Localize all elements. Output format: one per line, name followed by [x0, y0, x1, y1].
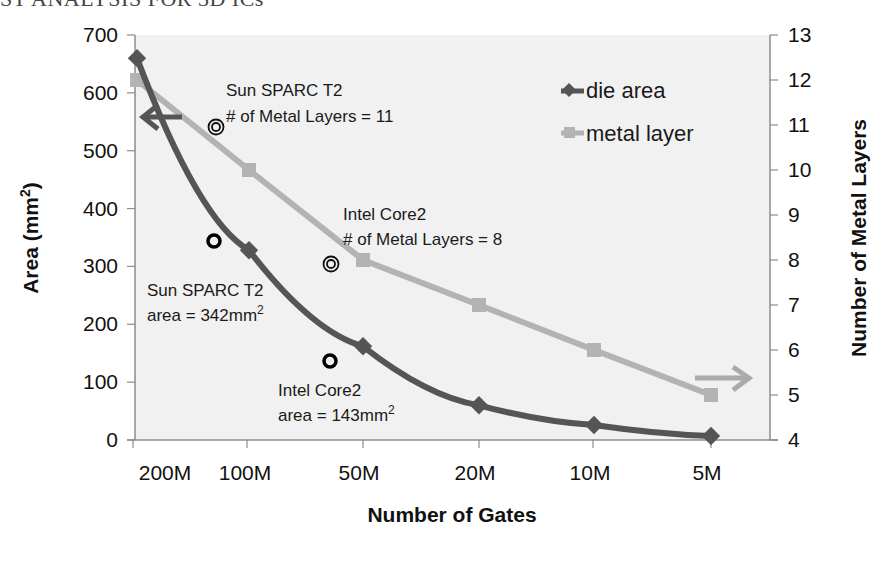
core2-area-label: Intel Core2 — [278, 381, 361, 400]
right-tick-label: 6 — [788, 338, 800, 361]
metal-layer-point — [472, 298, 486, 312]
sparc-layers-value: # of Metal Layers = 11 — [226, 107, 393, 126]
metal-layer-point — [242, 163, 256, 177]
x-tick-label: 100M — [219, 461, 272, 484]
dual-axis-line-chart: 0100200300400500600700 45678910111213 20… — [0, 0, 890, 563]
x-tick-label: 50M — [339, 461, 380, 484]
right-tick-label: 10 — [788, 158, 811, 181]
right-tick-label: 4 — [788, 428, 800, 451]
metal-layer-point — [356, 253, 370, 267]
x-tick-label: 20M — [455, 461, 496, 484]
x-tick-label: 200M — [139, 461, 192, 484]
left-axis-ticks: 0100200300400500600700 — [83, 23, 135, 451]
left-tick-label: 300 — [83, 254, 118, 277]
core2-area-value: area = 143mm2 — [278, 403, 395, 425]
left-tick-label: 100 — [83, 370, 118, 393]
right-tick-label: 8 — [788, 248, 800, 271]
sparc-area-label: Sun SPARC T2 — [147, 281, 264, 300]
left-tick-label: 700 — [83, 23, 118, 46]
left-tick-label: 0 — [106, 428, 118, 451]
legend-die-area-label: die area — [586, 78, 666, 103]
left-axis-title: Area (mm2) — [17, 182, 42, 294]
metal-layer-point — [587, 343, 601, 357]
right-tick-label: 12 — [788, 68, 811, 91]
left-tick-label: 200 — [83, 312, 118, 335]
x-axis-title: Number of Gates — [367, 503, 536, 526]
x-tick-label: 10M — [570, 461, 611, 484]
right-tick-label: 9 — [788, 203, 800, 226]
x-axis-ticks: 200M100M50M20M10M5M — [133, 440, 722, 484]
left-tick-label: 400 — [83, 197, 118, 220]
right-tick-label: 13 — [788, 23, 811, 46]
left-tick-label: 500 — [83, 139, 118, 162]
legend-metal-layer-label: metal layer — [586, 121, 694, 146]
sparc-layers-label: Sun SPARC T2 — [226, 81, 343, 100]
left-tick-label: 600 — [83, 81, 118, 104]
right-tick-label: 11 — [788, 113, 810, 136]
core2-layers-value: # of Metal Layers = 8 — [343, 230, 502, 249]
x-tick-label: 5M — [692, 461, 721, 484]
core2-layers-label: Intel Core2 — [343, 205, 426, 224]
right-axis-title: Number of Metal Layers — [847, 119, 870, 357]
right-tick-label: 5 — [788, 383, 800, 406]
sparc-area-value: area = 342mm2 — [147, 303, 264, 325]
right-axis-ticks: 45678910111213 — [770, 23, 811, 451]
right-tick-label: 7 — [788, 293, 800, 316]
metal-layer-point — [704, 388, 718, 402]
